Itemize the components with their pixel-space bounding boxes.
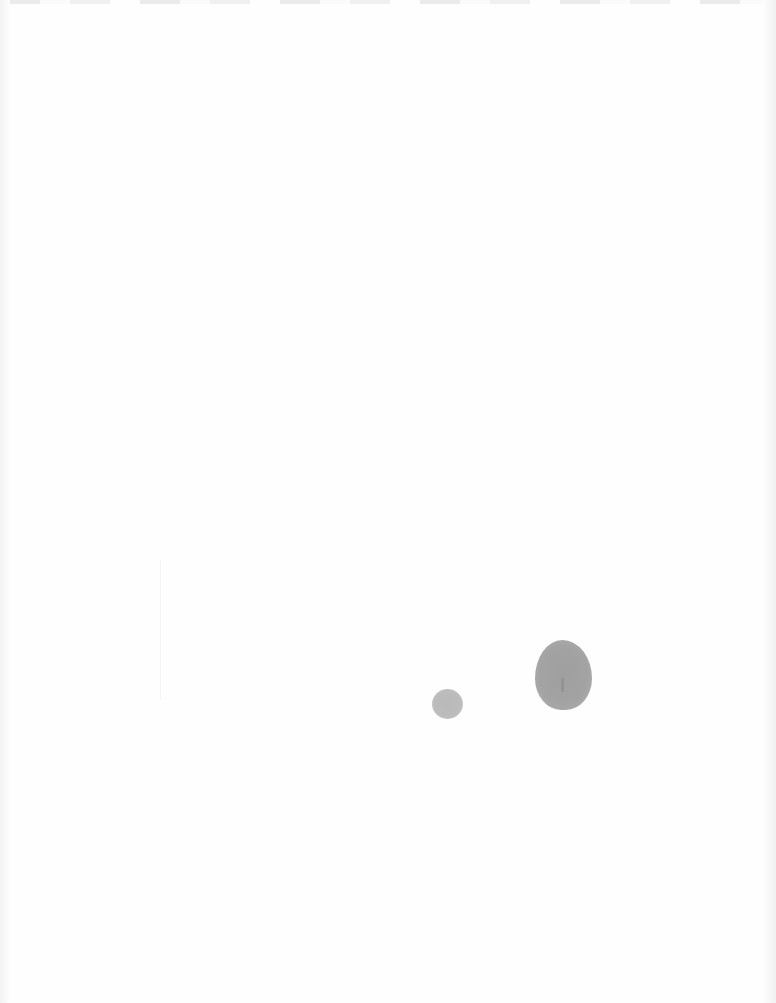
faint-scan-line — [160, 560, 161, 700]
scan-edge-top — [0, 0, 776, 4]
stain-small — [432, 689, 463, 719]
scanned-page — [0, 0, 776, 1003]
stain-large — [535, 640, 592, 710]
scan-edge-right — [762, 0, 776, 1003]
scan-edge-left — [0, 0, 10, 1003]
